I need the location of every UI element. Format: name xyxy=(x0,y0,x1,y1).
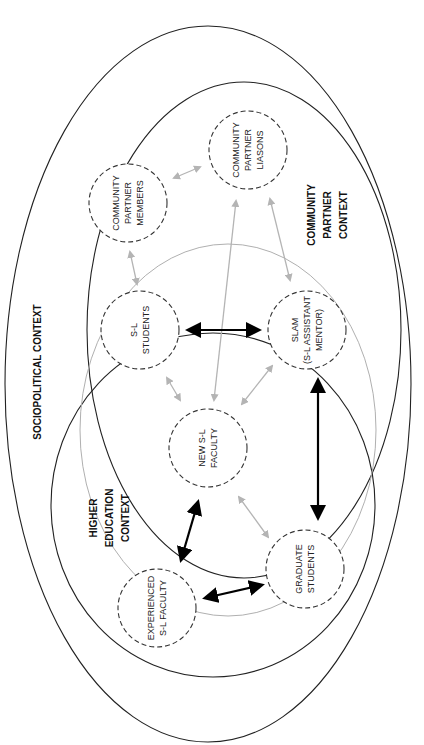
higher-education-context-ellipse xyxy=(51,333,375,677)
node-community-partner-liasons: COMMUNITY PARTNER LIASONS xyxy=(209,111,287,189)
node-label: S-L xyxy=(129,323,139,337)
context-label: SOCIOPOLITICAL CONTEXT xyxy=(32,304,43,439)
node-new-sl-faculty: NEW S-L FACULTY xyxy=(169,409,247,487)
node-label: STUDENTS xyxy=(306,545,316,594)
node-label: LIASONS xyxy=(255,130,265,169)
higher-education-context-label: HIGHER EDUCATION CONTEXT xyxy=(88,489,131,548)
node-label: COMMUNITY xyxy=(111,175,121,231)
node-sl-students: S-L STUDENTS xyxy=(101,291,179,369)
node-label: PARTNER xyxy=(123,181,133,224)
sociopolitical-context-ellipse xyxy=(5,26,411,742)
node-label: PARTNER xyxy=(243,128,253,171)
context-label: COMMUNITY xyxy=(306,184,317,246)
node-graduate-students: GRADUATE STUDENTS xyxy=(266,530,344,608)
service-learning-context-diagram: COMMUNITY PARTNER MEMBERS COMMUNITY PART… xyxy=(0,0,424,745)
node-label: (S-L ASSISTANT xyxy=(302,295,312,364)
context-label: PARTNER xyxy=(322,190,333,238)
node-experienced-sl-faculty: EXPERIENCED S-L FACULTY xyxy=(118,569,196,647)
node-label: S-L FACULTY xyxy=(158,580,168,636)
node-community-partner-members: COMMUNITY PARTNER MEMBERS xyxy=(89,164,167,242)
context-label: CONTEXT xyxy=(338,191,349,239)
arrow-experienced-graduate xyxy=(205,585,262,598)
context-label: HIGHER xyxy=(88,498,99,538)
node-label: STUDENTS xyxy=(141,306,151,355)
node-label: SLAM xyxy=(290,318,300,343)
arrow-members-students xyxy=(130,252,137,284)
node-label: NEW S-L xyxy=(197,429,207,467)
node-label: COMMUNITY xyxy=(231,122,241,178)
arrow-liasons-slam xyxy=(270,199,290,280)
node-label: EXPERIENCED xyxy=(146,575,156,640)
arrow-members-liasons xyxy=(174,167,200,178)
node-label: GRADUATE xyxy=(294,544,304,593)
node-slam: SLAM (S-L ASSISTANT MENTOR) xyxy=(268,291,346,369)
context-label: CONTEXT xyxy=(120,494,131,542)
node-label: MENTOR) xyxy=(314,309,324,351)
node-label: MEMBERS xyxy=(135,180,145,226)
context-label: EDUCATION xyxy=(104,489,115,548)
node-label: FACULTY xyxy=(209,428,219,468)
arrow-slam-newfaculty xyxy=(242,366,272,404)
arrow-newfaculty-graduate xyxy=(239,497,268,537)
community-partner-context-label: COMMUNITY PARTNER CONTEXT xyxy=(306,184,349,246)
arrow-students-newfaculty xyxy=(167,378,180,400)
arrow-liasons-newfaculty xyxy=(214,201,236,400)
sociopolitical-context-label: SOCIOPOLITICAL CONTEXT xyxy=(32,304,43,439)
arrow-newfaculty-experienced xyxy=(181,502,198,560)
